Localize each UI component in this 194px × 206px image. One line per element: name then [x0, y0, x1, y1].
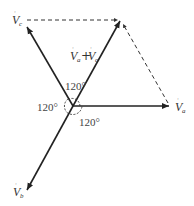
label-va: V a · — [175, 95, 186, 115]
angle-label-top: 120° — [65, 80, 86, 92]
vector-vc — [27, 27, 73, 106]
dashed-line-right — [123, 24, 168, 103]
svg-text:a: a — [182, 107, 186, 115]
label-vc: V c · — [12, 8, 23, 28]
vector-vb — [27, 106, 73, 190]
svg-text:·: · — [90, 44, 92, 51]
svg-text:·: · — [15, 180, 17, 187]
svg-text:c: c — [19, 20, 23, 28]
svg-text:·: · — [72, 44, 74, 51]
svg-text:·: · — [177, 95, 179, 102]
label-vb: V b · — [13, 180, 24, 200]
svg-text:·: · — [14, 8, 16, 15]
angle-arc-left — [64, 99, 69, 114]
angle-label-left: 120° — [37, 101, 58, 113]
angle-label-bottom: 120° — [79, 116, 100, 128]
label-va-plus-vc: V a + V c · · — [70, 44, 99, 64]
svg-text:b: b — [20, 192, 24, 200]
phasor-diagram: 120° 120° 120° V c · V a + V c · · V a ·… — [0, 0, 194, 206]
